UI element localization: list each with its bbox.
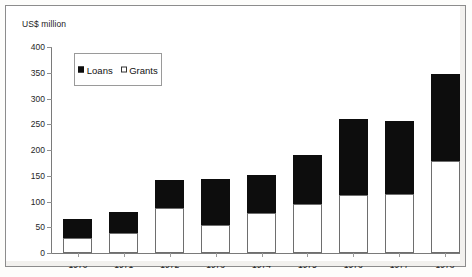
chart-legend: LoansGrants [74, 53, 162, 86]
x-axis-tick [78, 253, 79, 257]
y-axis-tick [47, 202, 52, 203]
x-axis-tick [307, 253, 308, 257]
bar-segment-loans [155, 180, 184, 208]
scan-edge-right [460, 6, 465, 266]
scan-edge-bottom [6, 261, 465, 266]
x-axis-tick [216, 253, 217, 257]
bar-segment-loans [63, 219, 92, 238]
x-axis-tick [262, 253, 263, 257]
stacked-bar [155, 180, 184, 253]
y-axis-tick [47, 99, 52, 100]
bar-segment-grants [201, 225, 230, 253]
y-axis-tick [47, 73, 52, 74]
legend-entry: Loans [78, 64, 112, 75]
stacked-bar [247, 175, 276, 253]
bar-segment-loans [431, 74, 460, 162]
x-axis-tick [445, 253, 446, 257]
bar-segment-grants [63, 238, 92, 253]
y-axis-tick [47, 150, 52, 151]
y-axis-tick [47, 176, 52, 177]
y-axis-tick-label: 350 [31, 68, 45, 78]
y-axis-tick-label: 200 [31, 145, 45, 155]
stacked-bar [63, 219, 92, 253]
bar-segment-grants [431, 161, 460, 253]
legend-entries: LoansGrants [75, 64, 161, 75]
y-axis-tick-label: 300 [31, 94, 45, 104]
y-axis-tick-label: 50 [36, 222, 45, 232]
figure-frame: US$ million 050100150200250300350400 197… [5, 5, 466, 267]
y-axis-tick [47, 47, 52, 48]
open-square-icon [121, 67, 127, 73]
y-axis-tick-label: 100 [31, 197, 45, 207]
y-axis-tick-label: 0 [40, 248, 45, 258]
x-axis-line [51, 253, 464, 254]
bar-segment-loans [293, 155, 322, 204]
stacked-bar [201, 179, 230, 253]
chart-page: US$ million 050100150200250300350400 197… [0, 0, 472, 277]
bar-segment-loans [201, 179, 230, 224]
stacked-bar [109, 212, 138, 253]
bar-segment-grants [385, 194, 414, 253]
y-axis-tick-label: 150 [31, 171, 45, 181]
legend-label: Grants [129, 64, 158, 75]
y-axis-tick [47, 253, 52, 254]
bar-segment-loans [247, 175, 276, 213]
stacked-bar [293, 155, 322, 253]
stacked-bar [431, 74, 460, 253]
legend-entry: Grants [121, 64, 158, 75]
y-axis-tick-label: 400 [31, 42, 45, 52]
filled-square-icon [78, 67, 84, 73]
y-axis-tick-label: 250 [31, 119, 45, 129]
x-axis-tick [170, 253, 171, 257]
bar-segment-grants [339, 195, 368, 253]
stacked-bar [339, 119, 368, 253]
bar-segment-loans [385, 121, 414, 194]
y-axis-tick [47, 227, 52, 228]
y-axis-unit-label: US$ million [22, 19, 66, 29]
bar-segment-loans [109, 212, 138, 234]
bar-segment-grants [293, 204, 322, 253]
legend-label: Loans [87, 64, 113, 75]
bar-segment-grants [109, 233, 138, 253]
bar-segment-loans [339, 119, 368, 195]
stacked-bar [385, 121, 414, 253]
x-axis-tick [399, 253, 400, 257]
bar-segment-grants [247, 213, 276, 253]
y-axis-tick [47, 124, 52, 125]
bar-segment-grants [155, 208, 184, 253]
x-axis-tick [353, 253, 354, 257]
x-axis-tick [124, 253, 125, 257]
